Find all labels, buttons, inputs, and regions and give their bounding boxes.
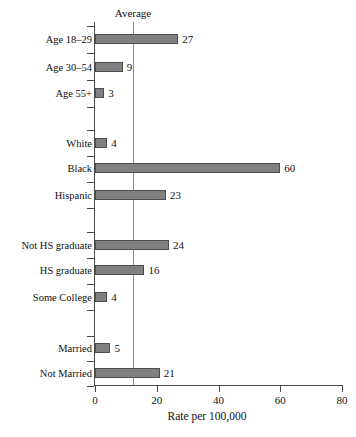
bar-value-label: 9 — [127, 62, 133, 73]
y-axis-tick — [87, 208, 94, 209]
bar — [95, 292, 107, 302]
x-axis-tick — [342, 386, 343, 392]
bar-value-label: 60 — [284, 163, 295, 174]
x-axis-title: Rate per 100,000 — [0, 410, 356, 423]
x-axis-tick — [95, 386, 96, 392]
bar-value-label: 21 — [164, 368, 175, 379]
category-label: Not HS graduate — [21, 240, 92, 251]
category-label: White — [66, 138, 92, 149]
bar-value-label: 3 — [108, 88, 114, 99]
bar — [95, 138, 107, 148]
x-axis-tick — [280, 386, 281, 392]
category-label: Age 30–54 — [46, 62, 92, 73]
y-axis-tick — [87, 258, 94, 259]
category-label: Age 18–29 — [46, 34, 92, 45]
bar — [95, 34, 178, 44]
bar — [95, 343, 110, 353]
x-axis-title-text: Rate per 100,000 — [110, 410, 247, 423]
bar — [95, 265, 144, 275]
category-label: Age 55+ — [55, 88, 92, 99]
bar-value-label: 16 — [148, 265, 159, 276]
bar-value-label: 4 — [111, 292, 117, 303]
average-line-label: Average — [115, 8, 151, 19]
bar — [95, 240, 169, 250]
bar — [95, 368, 160, 378]
y-axis-tick — [87, 232, 94, 233]
x-axis-tick-label: 40 — [213, 394, 224, 406]
category-label: HS graduate — [40, 265, 92, 276]
y-axis-tick — [87, 53, 94, 54]
y-axis-tick — [87, 386, 94, 387]
x-axis-tick — [219, 386, 220, 392]
x-axis-tick-label: 0 — [92, 394, 98, 406]
y-axis-tick — [87, 156, 94, 157]
y-axis-tick — [87, 284, 94, 285]
bar-value-label: 24 — [173, 240, 184, 251]
bar-value-label: 27 — [182, 34, 193, 45]
category-label: Hispanic — [55, 190, 92, 201]
bar-value-label: 4 — [111, 138, 117, 149]
x-axis-tick-label: 60 — [275, 394, 286, 406]
x-axis-tick — [157, 386, 158, 392]
y-axis-tick — [87, 182, 94, 183]
bar-chart: Average 27Age 18–299Age 30–543Age 55+4Wh… — [0, 0, 356, 437]
plot-area: Average 27Age 18–299Age 30–543Age 55+4Wh… — [0, 0, 356, 437]
category-label: Black — [68, 163, 93, 174]
bar — [95, 88, 104, 98]
bar — [95, 62, 123, 72]
y-axis-tick — [87, 310, 94, 311]
average-reference-line — [133, 22, 134, 386]
bar-value-label: 5 — [114, 343, 120, 354]
y-axis-tick — [87, 107, 94, 108]
y-axis-tick — [87, 26, 94, 27]
x-axis-tick-label: 80 — [337, 394, 348, 406]
y-axis-line — [94, 22, 95, 386]
y-axis-tick — [87, 361, 94, 362]
y-axis-tick — [87, 130, 94, 131]
bar — [95, 163, 280, 173]
y-axis-tick — [87, 80, 94, 81]
x-axis-tick-label: 20 — [151, 394, 162, 406]
category-label: Married — [58, 343, 92, 354]
category-label: Not Married — [40, 368, 92, 379]
y-axis-tick — [87, 336, 94, 337]
category-label: Some College — [33, 292, 92, 303]
bar — [95, 190, 166, 200]
bar-value-label: 23 — [170, 190, 181, 201]
